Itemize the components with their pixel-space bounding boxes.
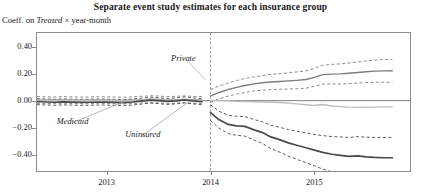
x-tick-label: 2014 <box>191 178 231 187</box>
figure: Separate event study estimates for each … <box>0 0 421 192</box>
y-tick-label: 0.00 <box>0 97 32 105</box>
chart-title: Separate event study estimates for each … <box>0 0 421 13</box>
plot-area <box>36 32 411 172</box>
caption-emphasis: Treated <box>36 15 62 25</box>
y-tick-label: −0.20 <box>0 124 32 132</box>
x-tick-label: 2015 <box>294 178 334 187</box>
y-tick-label: 0.40 <box>0 43 32 51</box>
y-axis-caption: Coeff. on Treated × year-month <box>2 15 111 26</box>
y-tick-label: −0.40 <box>0 151 32 159</box>
y-tick-label: 0.20 <box>0 70 32 78</box>
series-label-medicaid: Medicaid <box>57 117 89 126</box>
caption-suffix: × year-month <box>62 15 111 25</box>
series-label-uninsured: Uninsured <box>125 130 160 139</box>
caption-prefix: Coeff. on <box>2 15 36 25</box>
x-tick-label: 2013 <box>87 178 127 187</box>
plot-svg <box>37 33 410 171</box>
series-label-private: Private <box>171 54 196 63</box>
